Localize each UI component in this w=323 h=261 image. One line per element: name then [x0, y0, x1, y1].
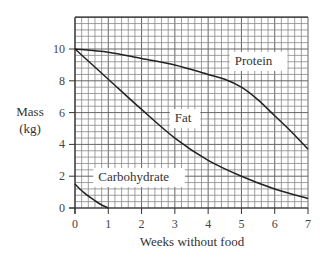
- y-axis-label: Mass: [16, 104, 43, 119]
- label-fat: Fat: [170, 109, 200, 128]
- y-axis-unit: (kg): [19, 121, 41, 136]
- x-tick-label: 5: [238, 217, 244, 231]
- x-tick-label: 7: [305, 217, 311, 231]
- series-labels: ProteinFatCarbohydrate: [93, 52, 287, 187]
- y-tick-label: 0: [59, 201, 65, 215]
- line-chart: 012345670246810 ProteinFatCarbohydrate W…: [0, 0, 323, 261]
- svg-text:Carbohydrate: Carbohydrate: [98, 169, 169, 184]
- x-axis-label: Weeks without food: [140, 234, 245, 249]
- y-tick-label: 4: [59, 137, 65, 151]
- y-tick-label: 8: [59, 74, 65, 88]
- svg-text:Fat: Fat: [175, 110, 192, 125]
- label-protein: Protein: [230, 52, 288, 71]
- y-tick-label: 2: [59, 169, 65, 183]
- x-tick-label: 6: [272, 217, 278, 231]
- x-tick-label: 3: [172, 217, 178, 231]
- label-carbohydrate: Carbohydrate: [93, 168, 185, 187]
- x-tick-label: 4: [205, 217, 211, 231]
- x-tick-label: 2: [139, 217, 145, 231]
- y-tick-label: 10: [53, 42, 65, 56]
- x-tick-label: 1: [105, 217, 111, 231]
- series-line-carbohydrate: [75, 184, 108, 208]
- svg-text:Protein: Protein: [235, 53, 273, 68]
- x-tick-label: 0: [72, 217, 78, 231]
- y-tick-label: 6: [59, 106, 65, 120]
